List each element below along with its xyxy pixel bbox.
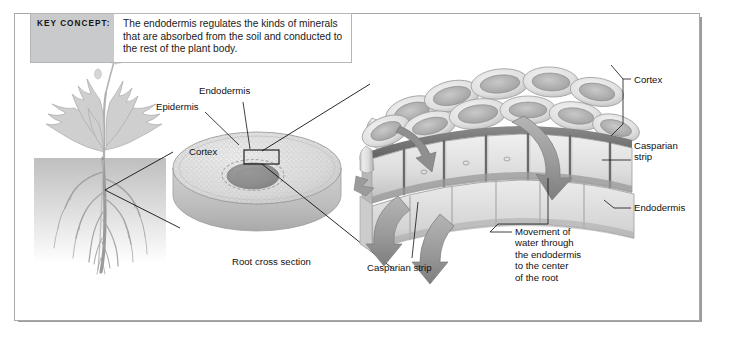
label-water-movement: Movement of water through the endodermis… [515,226,581,283]
label-cortex-detail: Cortex [634,74,662,85]
key-concept-tag: KEY CONCEPT: [31,14,114,62]
key-concept-text: The endodermis regulates the kinds of mi… [114,14,351,56]
caption-root-cross-section: Root cross section [232,256,311,267]
label-casparian-strip-right: Casparian strip [634,140,678,163]
key-concept-callout: KEY CONCEPT: The endodermis regulates th… [30,13,352,63]
label-casparian-strip-bottom: Casparian strip [367,262,432,273]
frame-shadow-right [700,17,702,321]
label-epidermis: Epidermis [156,101,199,112]
label-endodermis-detail: Endodermis [634,202,685,213]
label-cortex-cross-section: Cortex [189,146,217,157]
figure-root: KEY CONCEPT: The endodermis regulates th… [0,0,730,339]
label-endodermis-cross-section: Endodermis [199,85,250,96]
